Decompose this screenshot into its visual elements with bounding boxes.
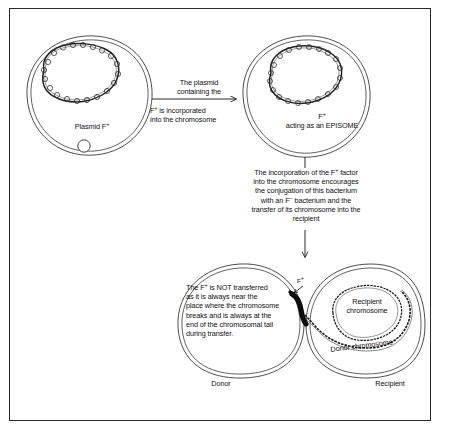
incorporation-line1-post: factor [338, 168, 358, 177]
arrow-caption-upper: The plasmidcontaining the [150, 78, 248, 96]
plasmid-label-text: Plasmid F [75, 122, 107, 131]
recipient-chromosome-label-line2: chromosome [346, 306, 387, 315]
arrow-caption-line2: containing the [177, 87, 221, 96]
episome-label-sup: + [323, 111, 326, 117]
arrow-caption-line3-post: is incorporated [157, 106, 205, 115]
recipient-chromosome-label-line1: Recipient [352, 297, 382, 306]
plasmid-label-sup: + [106, 121, 109, 127]
donor-note-line1-pre: The F [186, 283, 205, 292]
episome-label: F+acting as an EPISOME [262, 112, 382, 130]
plasmid-fplus-label: Plasmid F+ [42, 122, 142, 131]
arrow-caption-line1: The plasmid [180, 78, 219, 87]
donor-note-line5: end of the chromosomal tail [186, 320, 273, 329]
episome-label-line2: acting as an EPISOME [286, 121, 359, 130]
donor-note-line4: breaks and is always at the [186, 311, 271, 320]
arrow-caption-line4: into the chromosome [150, 115, 216, 124]
incorporation-line2: into the chromosome encourages [253, 177, 358, 186]
donor-cell-label: Donor [191, 379, 251, 388]
arrow-caption-lower: F+ is incorporatedinto the chromosome [150, 106, 250, 124]
incorporation-line4-pre: with an F [261, 196, 290, 205]
fplus-bridge-label: F+ [297, 276, 317, 285]
incorporation-line1-pre: The incorporation of the F [254, 168, 335, 177]
diagram-root: The plasmidcontaining the F+ is incorpor… [0, 0, 451, 436]
fplus-bridge-sup: + [301, 275, 304, 281]
recipient-chromosome-label: Recipientchromosome [332, 297, 402, 315]
donor-note-paragraph: The F+ is NOT transferredas it is always… [186, 283, 294, 338]
incorporation-line4-post: bacterium and the [293, 196, 352, 205]
donor-note-line1-post: is NOT transferred [208, 283, 268, 292]
donor-note-line2: as it is always near the [186, 292, 257, 301]
donor-note-line6: during transfer. [186, 329, 233, 338]
incorporation-line5: transfer of its chromosome into the [252, 205, 361, 214]
donor-note-line3: place where the chromosome [186, 301, 279, 310]
incorporation-paragraph: The incorporation of the F+ factorinto t… [232, 168, 380, 223]
recipient-cell-label: Recipient [355, 379, 425, 388]
incorporation-line6: recipient [293, 214, 320, 223]
incorporation-line3: the conjugation of this bacterium [255, 186, 357, 195]
